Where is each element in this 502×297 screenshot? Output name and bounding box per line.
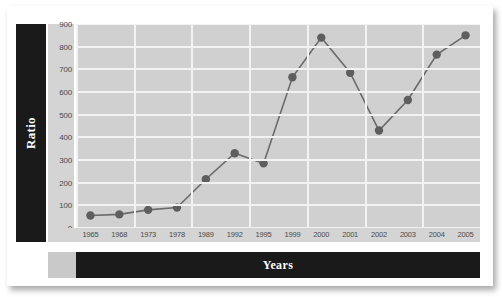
series-line [90,35,465,215]
horizontal-gridline [76,136,480,138]
data-point-marker: 1965: 55 [86,211,94,219]
y-axis-tick-label: 500 [48,110,72,119]
x-axis-tick-label: 1999 [284,230,300,239]
y-axis-tick-label: 800 [48,42,72,51]
vertical-gridline [307,24,309,228]
data-point-marker: 2005: 850 [461,31,469,39]
horizontal-gridline [76,182,480,184]
x-axis-title: Years [263,258,294,273]
x-axis-tick-label: 2004 [429,230,445,239]
horizontal-gridline [76,114,480,116]
x-axis-tick-label: 1992 [227,230,243,239]
x-axis-tick-label: 2001 [342,230,358,239]
horizontal-gridline [76,24,480,25]
y-axis-title-panel: Ratio [16,24,46,242]
horizontal-gridline [76,68,480,70]
data-point-marker: 2002: 430 [375,126,383,134]
horizontal-gridline [76,46,480,48]
y-axis-tick-label: 100 [48,201,72,210]
x-axis-title-panel: Years [76,252,480,278]
data-point-marker: 1968: 60 [115,210,123,218]
x-axis-title-stub [48,252,76,278]
x-axis-tick-label: 1978 [169,230,185,239]
data-point-marker: 2004: 765 [433,50,441,58]
vertical-gridline [76,24,78,228]
data-point-marker: 1992: 330 [231,149,239,157]
horizontal-gridline [76,159,480,161]
x-axis-tick-label: 2002 [371,230,387,239]
x-axis-tick-label: 1995 [256,230,272,239]
vertical-gridline [422,24,424,228]
y-axis-tick-label: 400 [48,133,72,142]
y-axis-tick-label: 700 [48,65,72,74]
x-axis-tick-label: 1989 [198,230,214,239]
line-series: 1965: 551968: 601973: 801978: 901989: 21… [76,24,480,228]
horizontal-gridline [76,204,480,206]
x-axis-tick-label: 2000 [313,230,329,239]
x-axis-tick-labels: 1965196819731978198919921995199920002001… [48,228,480,242]
x-axis-tick-label: 1973 [140,230,156,239]
data-point-marker: 2003: 565 [404,96,412,104]
horizontal-gridline [76,91,480,93]
y-axis-title: Ratio [16,24,46,242]
data-point-marker: 1999: 665 [288,73,296,81]
x-axis-tick-label: 1968 [111,230,127,239]
y-axis-tick-labels: 0100200300400500600700800900 [48,24,74,242]
vertical-gridline [134,24,136,228]
x-axis-tick-label: 1965 [82,230,98,239]
vertical-gridline [365,24,367,228]
x-axis-tick-label: 2003 [400,230,416,239]
data-point-marker: 1973: 80 [144,206,152,214]
chart-figure: Ratio 0100200300400500600700800900 1965:… [0,0,502,297]
y-axis-tick-label: 600 [48,88,72,97]
x-axis-tick-label: 2005 [458,230,474,239]
plot-area: 1965: 551968: 601973: 801978: 901989: 21… [76,24,480,228]
y-axis-tick-label: 900 [48,20,72,29]
y-axis-tick-label: 300 [48,156,72,165]
data-point-marker: 2000: 840 [317,33,325,41]
vertical-gridline [191,24,193,228]
y-axis-tick-label: 200 [48,178,72,187]
vertical-gridline [249,24,251,228]
